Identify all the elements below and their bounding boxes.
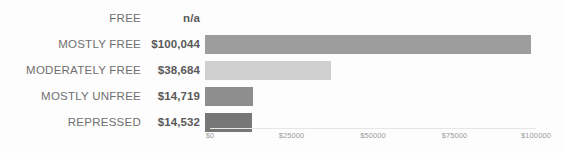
axis-tick-label: $0 — [206, 132, 215, 140]
category-label: REPRESSED — [0, 117, 141, 129]
category-label: MODERATELY FREE — [0, 65, 141, 77]
bar-track — [205, 84, 563, 110]
category-label: MOSTLY UNFREE — [0, 91, 141, 103]
axis-tick-label: $75000 — [442, 132, 468, 140]
table-row: MOSTLY FREE $100,044 — [0, 32, 563, 58]
axis-line — [210, 128, 536, 129]
bar-track — [205, 32, 563, 58]
bar-chart: FREE n/a MOSTLY FREE $100,044 MODERATELY… — [0, 0, 563, 153]
axis-tick-label: $25000 — [279, 132, 305, 140]
value-label: $14,719 — [141, 91, 205, 103]
chart-rows: FREE n/a MOSTLY FREE $100,044 MODERATELY… — [0, 6, 563, 136]
axis-tick-label: $50000 — [360, 132, 386, 140]
value-label: n/a — [141, 13, 205, 25]
bar[interactable] — [205, 35, 531, 54]
bar[interactable] — [205, 61, 331, 80]
table-row: MOSTLY UNFREE $14,719 — [0, 84, 563, 110]
table-row: MODERATELY FREE $38,684 — [0, 58, 563, 84]
bar-track — [205, 58, 563, 84]
bar[interactable] — [205, 87, 253, 106]
value-label: $38,684 — [141, 65, 205, 77]
bar-track — [205, 6, 563, 32]
axis-tick-label: $100000 — [521, 132, 551, 140]
category-label: MOSTLY FREE — [0, 39, 141, 51]
table-row: FREE n/a — [0, 6, 563, 32]
value-label: $14,532 — [141, 117, 205, 129]
value-label: $100,044 — [141, 39, 205, 51]
category-label: FREE — [0, 13, 141, 25]
x-axis: $0 $25000 $50000 $75000 $100000 — [210, 128, 536, 153]
